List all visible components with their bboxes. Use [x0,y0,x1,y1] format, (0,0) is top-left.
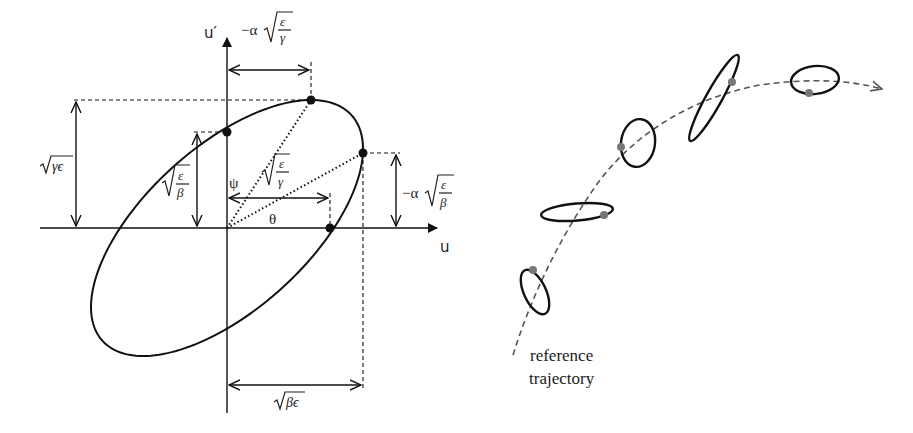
label-right-offset: −α ε β [402,175,454,210]
label-top-offset: −α ε γ [241,12,293,45]
label-diagonal: ε γ [262,154,290,189]
point-max-uprime [307,96,316,105]
beam-ellipse-4 [683,51,745,144]
point-u-intercept [326,224,335,233]
radicand: βϵ [285,395,300,410]
u-axis-label: u [440,238,450,256]
numerator: ε [441,177,447,192]
numerator: ε [178,168,184,183]
uprime-axis-label: u′ [204,24,218,42]
denominator: β [439,195,447,210]
reference-trajectory-curve [513,81,882,355]
alpha-prefix: −α [241,22,257,38]
numerator: ε [279,156,285,171]
radial-line-right [227,153,363,228]
beam-ellipse-1 [515,266,555,319]
guide-lines [74,62,400,390]
psi-label: ψ [229,175,239,191]
trajectory-label-line2: trajectory [529,369,595,388]
beam-ellipse-5 [790,64,841,97]
denominator: γ [278,174,284,189]
beam-ellipse-3 [618,117,658,169]
alpha-prefix: −α [402,185,418,201]
numerator: ε [280,14,286,29]
point-uprime-intercept [223,128,232,137]
label-max-u: βϵ [274,392,305,410]
figure-canvas: u u′ [0,0,913,433]
beam-trajectory-diagram: reference trajectory [513,51,882,388]
denominator: β [176,185,184,200]
radicand: γϵ [52,159,65,174]
label-uprime-intercept: ε β [162,165,190,200]
trajectory-label-line1: reference [530,346,593,365]
label-max-uprime: γϵ [40,156,73,174]
particle-marker-4 [728,78,736,86]
particle-marker-3 [617,143,625,151]
point-max-u [359,149,368,158]
theta-label: θ [269,211,276,227]
denominator: γ [280,30,286,45]
particle-marker-1 [529,266,537,274]
phase-space-diagram: u u′ [40,12,454,413]
radial-line-top [227,100,311,228]
particle-marker-5 [805,89,813,97]
particle-marker-2 [600,211,608,219]
